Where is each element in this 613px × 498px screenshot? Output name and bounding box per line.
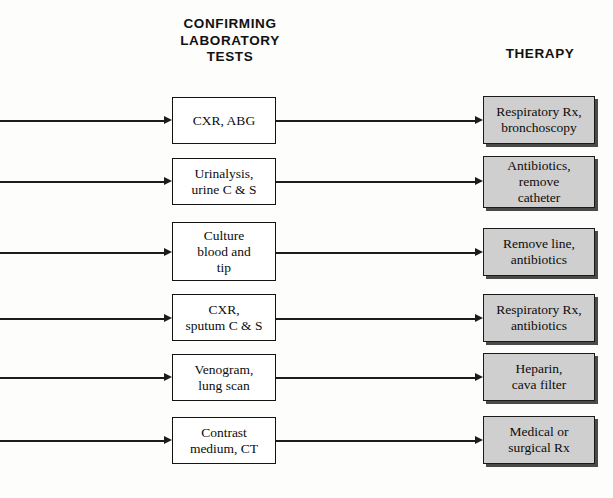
outbound-connector-row-1 <box>276 120 475 122</box>
inbound-arrowhead-row-5 <box>164 373 172 381</box>
outbound-connector-row-5 <box>276 377 475 379</box>
outbound-arrowhead-row-1 <box>475 116 483 124</box>
inbound-connector-row-3 <box>0 252 165 254</box>
test-box-row-5: Venogram, lung scan <box>172 354 276 401</box>
therapy-box-row-4: Respiratory Rx, antibiotics <box>483 294 595 342</box>
inbound-connector-row-4 <box>0 318 165 320</box>
inbound-arrowhead-row-6 <box>164 436 172 444</box>
inbound-connector-row-6 <box>0 440 165 442</box>
column-header-therapy: THERAPY <box>470 46 610 63</box>
outbound-arrowhead-row-2 <box>475 177 483 185</box>
test-box-row-2: Urinalysis, urine C & S <box>172 158 276 205</box>
inbound-arrowhead-row-2 <box>164 177 172 185</box>
outbound-connector-row-6 <box>276 440 475 442</box>
test-box-row-6: Contrast medium, CT <box>172 417 276 464</box>
test-box-row-1: CXR, ABG <box>172 97 276 144</box>
inbound-arrowhead-row-1 <box>164 116 172 124</box>
test-box-row-3: Culture blood and tip <box>172 222 276 281</box>
inbound-arrowhead-row-3 <box>164 248 172 256</box>
inbound-connector-row-5 <box>0 377 165 379</box>
inbound-arrowhead-row-4 <box>164 314 172 322</box>
outbound-connector-row-4 <box>276 318 475 320</box>
therapy-box-row-2: Antibiotics, remove catheter <box>483 156 595 208</box>
inbound-connector-row-2 <box>0 181 165 183</box>
therapy-box-row-3: Remove line, antibiotics <box>483 228 595 276</box>
therapy-box-row-1: Respiratory Rx, bronchoscopy <box>483 96 595 144</box>
outbound-arrowhead-row-3 <box>475 248 483 256</box>
column-header-confirming-laboratory-tests: CONFIRMING LABORATORY TESTS <box>150 16 310 66</box>
test-box-row-4: CXR, sputum C & S <box>172 294 276 341</box>
outbound-connector-row-3 <box>276 252 475 254</box>
therapy-box-row-5: Heparin, cava filter <box>483 353 595 401</box>
outbound-arrowhead-row-4 <box>475 314 483 322</box>
flowchart-page: CONFIRMING LABORATORY TESTS THERAPY CXR,… <box>0 0 613 498</box>
outbound-connector-row-2 <box>276 181 475 183</box>
therapy-box-row-6: Medical or surgical Rx <box>483 416 595 464</box>
inbound-connector-row-1 <box>0 120 165 122</box>
outbound-arrowhead-row-6 <box>475 436 483 444</box>
outbound-arrowhead-row-5 <box>475 373 483 381</box>
